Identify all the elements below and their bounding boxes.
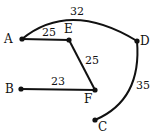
- node-D: [134, 38, 139, 43]
- edge-A-D: [22, 20, 137, 41]
- edge-A-E: [22, 39, 69, 40]
- node-label-A: A: [3, 32, 13, 46]
- node-E: [66, 37, 71, 42]
- node-label-F: F: [84, 92, 92, 106]
- weight-E-F: 25: [85, 54, 99, 67]
- edge-B-F: [21, 89, 95, 90]
- node-label-D: D: [140, 34, 150, 48]
- node-A: [19, 36, 24, 41]
- graph-diagram: A E D B F C 32 25 25 23 35: [0, 0, 157, 133]
- node-label-E: E: [64, 22, 73, 36]
- weight-D-C: 35: [136, 79, 150, 92]
- edge-D-C: [95, 41, 137, 120]
- node-B: [18, 86, 23, 91]
- weight-B-F: 23: [51, 75, 65, 88]
- node-F: [92, 87, 97, 92]
- weight-A-E: 25: [42, 26, 56, 39]
- node-label-C: C: [98, 120, 107, 133]
- weight-A-D: 32: [70, 5, 84, 18]
- node-label-B: B: [5, 82, 14, 96]
- node-C: [92, 117, 97, 122]
